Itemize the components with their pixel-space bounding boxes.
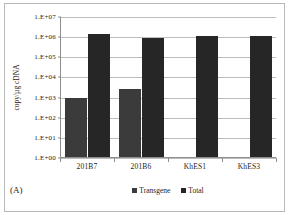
- bar-total: [250, 36, 272, 157]
- bar-total: [88, 34, 110, 157]
- bar-group: [222, 17, 276, 157]
- x-axis-labels: 201B7201B6KhES1KhES3: [60, 162, 276, 171]
- x-axis-category-label: KhES1: [168, 162, 222, 171]
- bar-groups: [61, 17, 276, 157]
- x-axis-tick-mark: [276, 158, 277, 162]
- legend-swatch-icon: [181, 188, 186, 193]
- y-axis-tick-label: 1.E+00: [34, 154, 56, 162]
- bar-group: [61, 17, 115, 157]
- plot-area: 1.E+071.E+061.E+051.E+041.E+031.E+021.E+…: [60, 17, 276, 158]
- chart-legend: TransgeneTotal: [60, 186, 276, 195]
- legend-item-total[interactable]: Total: [181, 186, 203, 195]
- legend-label: Transgene: [139, 186, 170, 195]
- bar-group: [169, 17, 223, 157]
- bar-transgene: [65, 98, 87, 158]
- y-axis-tick-label: 1.E+02: [34, 114, 56, 122]
- y-axis-tick-label: 1.E+05: [34, 53, 56, 61]
- legend-label: Total: [188, 186, 203, 195]
- y-axis-title: copy/µg cDNA: [10, 17, 23, 158]
- bar-total: [142, 38, 164, 157]
- x-axis-category-label: KhES3: [222, 162, 276, 171]
- y-axis-tick-label: 1.E+01: [34, 134, 56, 142]
- y-axis-tick-label: 1.E+07: [34, 13, 56, 21]
- y-axis-tick-label: 1.E+03: [34, 94, 56, 102]
- panel-label: (A): [10, 185, 23, 195]
- y-axis-tick-label: 1.E+06: [34, 33, 56, 41]
- bar-group: [115, 17, 169, 157]
- legend-swatch-icon: [132, 188, 137, 193]
- bar-transgene: [119, 89, 141, 157]
- y-axis-tick-label: 1.E+04: [34, 73, 56, 81]
- bar-total: [196, 36, 218, 157]
- x-axis-category-label: 201B6: [114, 162, 168, 171]
- figure-panel-a: copy/µg cDNA 1.E+071.E+061.E+051.E+041.E…: [0, 0, 289, 215]
- legend-item-transgene[interactable]: Transgene: [132, 186, 170, 195]
- x-axis-category-label: 201B7: [60, 162, 114, 171]
